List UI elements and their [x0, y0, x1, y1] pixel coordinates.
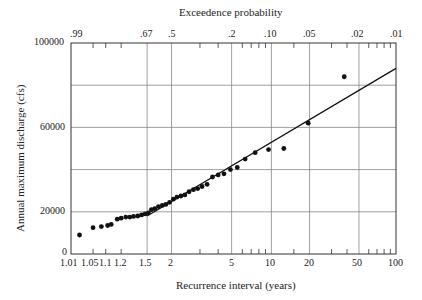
data-point [187, 189, 192, 194]
data-point [167, 200, 172, 205]
data-point [243, 157, 248, 162]
data-point [266, 147, 271, 152]
data-point [123, 215, 128, 220]
data-point [77, 233, 82, 238]
data-point [200, 184, 205, 189]
data-point [342, 74, 347, 79]
data-point [99, 224, 104, 229]
plot-frame [71, 43, 396, 254]
data-point [205, 182, 210, 187]
data-point [210, 175, 215, 180]
data-point [281, 146, 286, 151]
data-point [306, 121, 311, 126]
data-point [191, 187, 196, 192]
data-point [119, 216, 124, 221]
data-point [182, 193, 187, 198]
plot-area [0, 0, 422, 300]
data-point [253, 150, 258, 155]
data-point [216, 172, 221, 177]
data-point [235, 165, 240, 170]
minor-ticks [93, 43, 390, 254]
data-point [222, 171, 227, 176]
data-point [109, 222, 114, 227]
data-point [91, 225, 96, 230]
gridlines [71, 43, 396, 254]
data-point [228, 167, 233, 172]
data-points [77, 74, 347, 237]
data-point [131, 214, 136, 219]
data-point [195, 186, 200, 191]
